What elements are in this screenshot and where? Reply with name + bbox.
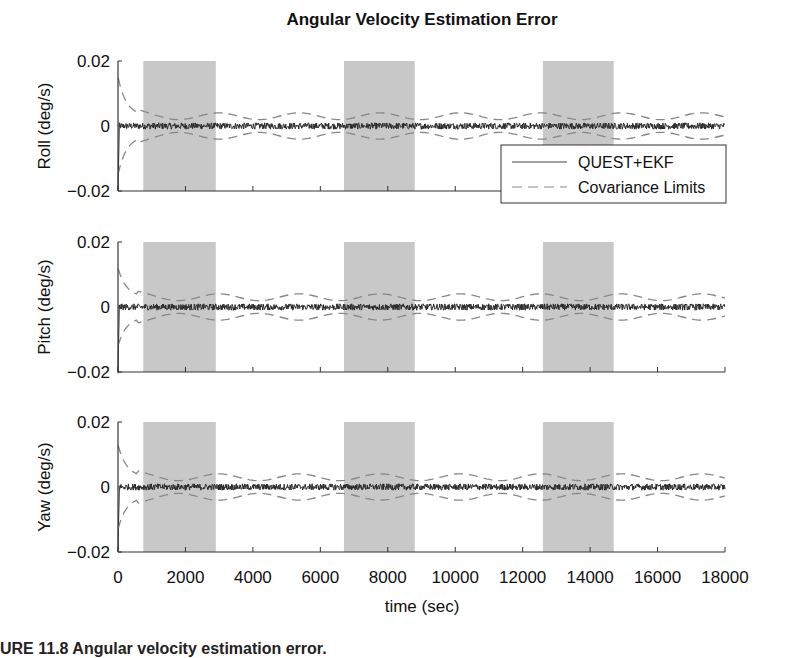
x-tick-label: 16000 [634,568,681,587]
chart-title: Angular Velocity Estimation Error [286,10,558,29]
x-tick-label: 0 [113,568,122,587]
x-tick-label: 14000 [566,568,613,587]
y-tick-label: 0.02 [77,413,110,432]
y-tick-label: −0.02 [67,543,110,562]
legend-label-quest-ekf: QUEST+EKF [578,154,674,171]
x-tick-label: 8000 [369,568,407,587]
y-axis-label: Roll (deg/s) [35,83,54,170]
x-tick-label: 12000 [499,568,546,587]
y-axis-label: Pitch (deg/s) [35,259,54,354]
y-tick-label: 0 [101,478,110,497]
y-tick-label: −0.02 [67,182,110,201]
x-tick-label: 6000 [301,568,339,587]
y-tick-label: 0.02 [77,52,110,71]
x-tick-label: 4000 [234,568,272,587]
x-tick-label: 10000 [432,568,479,587]
panel-yaw: −0.0200.02Yaw (deg/s) [35,413,725,562]
y-tick-label: 0.02 [77,233,110,252]
x-tick-label: 18000 [701,568,748,587]
legend-label-covariance-limits: Covariance Limits [578,179,705,196]
legend: QUEST+EKF Covariance Limits [501,145,726,203]
y-tick-label: 0 [101,117,110,136]
x-axis-label: time (sec) [385,597,460,616]
y-tick-label: −0.02 [67,363,110,382]
figure-caption: URE 11.8 Angular velocity estimation err… [0,640,327,658]
y-tick-label: 0 [101,298,110,317]
x-tick-label: 2000 [167,568,205,587]
panel-pitch: −0.0200.02Pitch (deg/s) [35,233,725,382]
y-axis-label: Yaw (deg/s) [35,442,54,531]
